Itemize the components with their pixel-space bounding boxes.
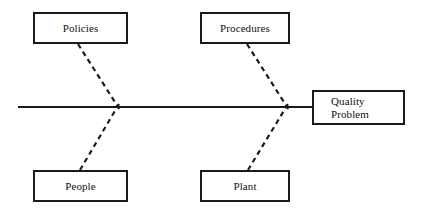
category-label-procedures: Procedures — [220, 22, 270, 35]
category-box-plant[interactable]: Plant — [200, 170, 290, 202]
rib-procedures — [247, 44, 289, 110]
category-label-people: People — [65, 180, 96, 193]
category-box-policies[interactable]: Policies — [33, 12, 128, 44]
rib-people — [80, 104, 119, 170]
category-label-policies: Policies — [63, 22, 99, 35]
rib-policies — [78, 44, 120, 110]
category-label-plant: Plant — [233, 180, 256, 193]
rib-plant — [248, 104, 288, 170]
effect-box-quality-problem[interactable]: Quality Problem — [312, 90, 405, 125]
category-box-procedures[interactable]: Procedures — [200, 12, 290, 44]
category-box-people[interactable]: People — [33, 170, 128, 202]
fishbone-diagram: Policies Procedures People Plant Quality… — [0, 0, 421, 214]
effect-label: Quality Problem — [331, 95, 369, 121]
